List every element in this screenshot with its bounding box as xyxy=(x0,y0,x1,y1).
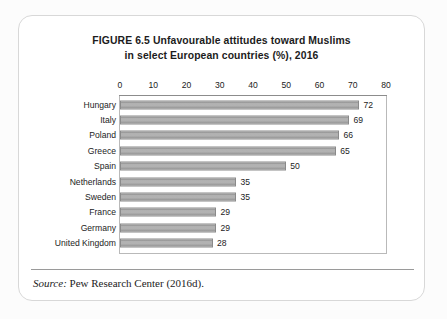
x-axis-tick-label: 30 xyxy=(215,80,225,90)
bar-value-label: 72 xyxy=(363,100,373,110)
category-label: Netherlands xyxy=(70,177,116,187)
category-label: Germany xyxy=(81,223,116,233)
bar xyxy=(120,162,286,171)
category-label: Greece xyxy=(88,146,116,156)
category-label: United Kingdom xyxy=(55,238,116,248)
bar-value-label: 29 xyxy=(220,207,230,217)
x-axis-tick-label: 80 xyxy=(381,80,391,90)
bar-row: Hungary72 xyxy=(19,97,426,112)
bar xyxy=(120,100,359,109)
source-text: Pew Research Center (2016d). xyxy=(67,277,204,289)
bar-row: Sweden35 xyxy=(19,189,426,204)
bar xyxy=(120,146,336,155)
source-note: Source: Pew Research Center (2016d). xyxy=(33,277,204,289)
bar xyxy=(120,131,339,140)
bar xyxy=(120,177,236,186)
bar-value-label: 66 xyxy=(343,130,353,140)
bar xyxy=(120,116,349,125)
bar-row: Poland66 xyxy=(19,128,426,143)
category-label: Spain xyxy=(94,161,116,171)
bar xyxy=(120,208,216,217)
category-label: Italy xyxy=(100,115,116,125)
x-axis-tick-label: 50 xyxy=(281,80,291,90)
bar-row: Netherlands35 xyxy=(19,174,426,189)
x-axis-tick-label: 70 xyxy=(348,80,358,90)
bar xyxy=(120,239,213,248)
bar-value-label: 50 xyxy=(290,161,300,171)
x-axis-tick-label: 0 xyxy=(118,80,123,90)
figure-card: FIGURE 6.5 Unfavourable attitudes toward… xyxy=(18,15,425,301)
bar-row: Italy69 xyxy=(19,112,426,127)
bar-value-label: 69 xyxy=(353,115,363,125)
x-axis-tick-label: 10 xyxy=(148,80,158,90)
bar-row: Germany29 xyxy=(19,220,426,235)
category-label: Hungary xyxy=(84,100,116,110)
bar xyxy=(120,193,236,202)
figure-page: FIGURE 6.5 Unfavourable attitudes toward… xyxy=(0,0,447,319)
source-label: Source: xyxy=(33,277,67,289)
category-label: Poland xyxy=(89,130,116,140)
x-axis-tick-label: 20 xyxy=(182,80,192,90)
bar-value-label: 35 xyxy=(240,192,250,202)
bar xyxy=(120,223,216,232)
bar-row: Greece65 xyxy=(19,143,426,158)
category-label: France xyxy=(89,207,116,217)
bar-value-label: 28 xyxy=(217,238,227,248)
bar-row: United Kingdom28 xyxy=(19,236,426,251)
bar-row: Spain50 xyxy=(19,159,426,174)
bar-chart: 01020304050607080 Hungary72Italy69Poland… xyxy=(19,16,426,302)
bar-value-label: 65 xyxy=(340,146,350,156)
bar-row: France29 xyxy=(19,205,426,220)
bar-value-label: 35 xyxy=(240,177,250,187)
source-divider xyxy=(31,269,414,270)
x-axis-tick-label: 60 xyxy=(315,80,325,90)
bar-value-label: 29 xyxy=(220,223,230,233)
x-axis-tick-label: 40 xyxy=(248,80,258,90)
category-label: Sweden xyxy=(85,192,116,202)
